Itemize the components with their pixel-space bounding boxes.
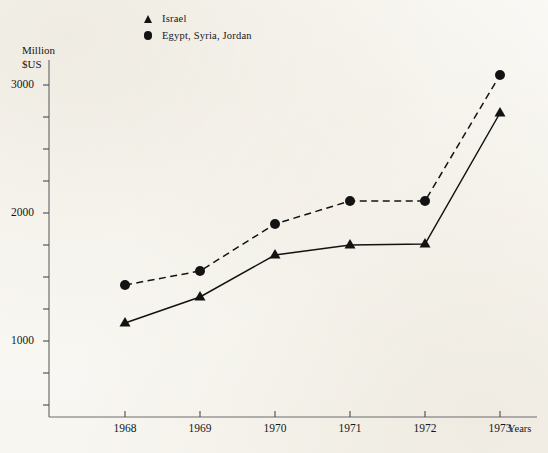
y-axis-ticks [43,85,49,405]
legend-item-arab: Egypt, Syria, Jordan [140,27,252,44]
series-markers-arab [120,70,505,290]
series-markers-israel [120,107,506,327]
y-tick-label-2000: 2000 [0,206,34,218]
x-axis-title: Years [508,423,531,434]
x-tick-label-1968: 1968 [102,422,148,434]
legend-label-israel: Israel [162,13,187,24]
series-line-israel [125,113,500,323]
y-axis-title-line2: $US [22,58,55,72]
line-chart: Israel Egypt, Syria, Jordan Million $US … [0,0,548,453]
chart-canvas [0,0,548,453]
y-tick-label-1000: 1000 [0,334,34,346]
series-line-arab [125,75,500,285]
x-tick-label-1970: 1970 [252,422,298,434]
x-tick-label-1969: 1969 [177,422,223,434]
legend-item-israel: Israel [140,10,252,27]
y-tick-label-3000: 3000 [0,78,34,90]
legend-label-arab: Egypt, Syria, Jordan [162,30,252,41]
y-axis-title: Million $US [22,44,55,71]
triangle-marker-icon [140,15,156,23]
x-tick-label-1972: 1972 [402,422,448,434]
chart-legend: Israel Egypt, Syria, Jordan [140,10,252,44]
x-axis-ticks [125,411,500,417]
circle-marker-icon [140,31,156,40]
x-tick-label-1971: 1971 [327,422,373,434]
y-axis-title-line1: Million [22,44,55,58]
